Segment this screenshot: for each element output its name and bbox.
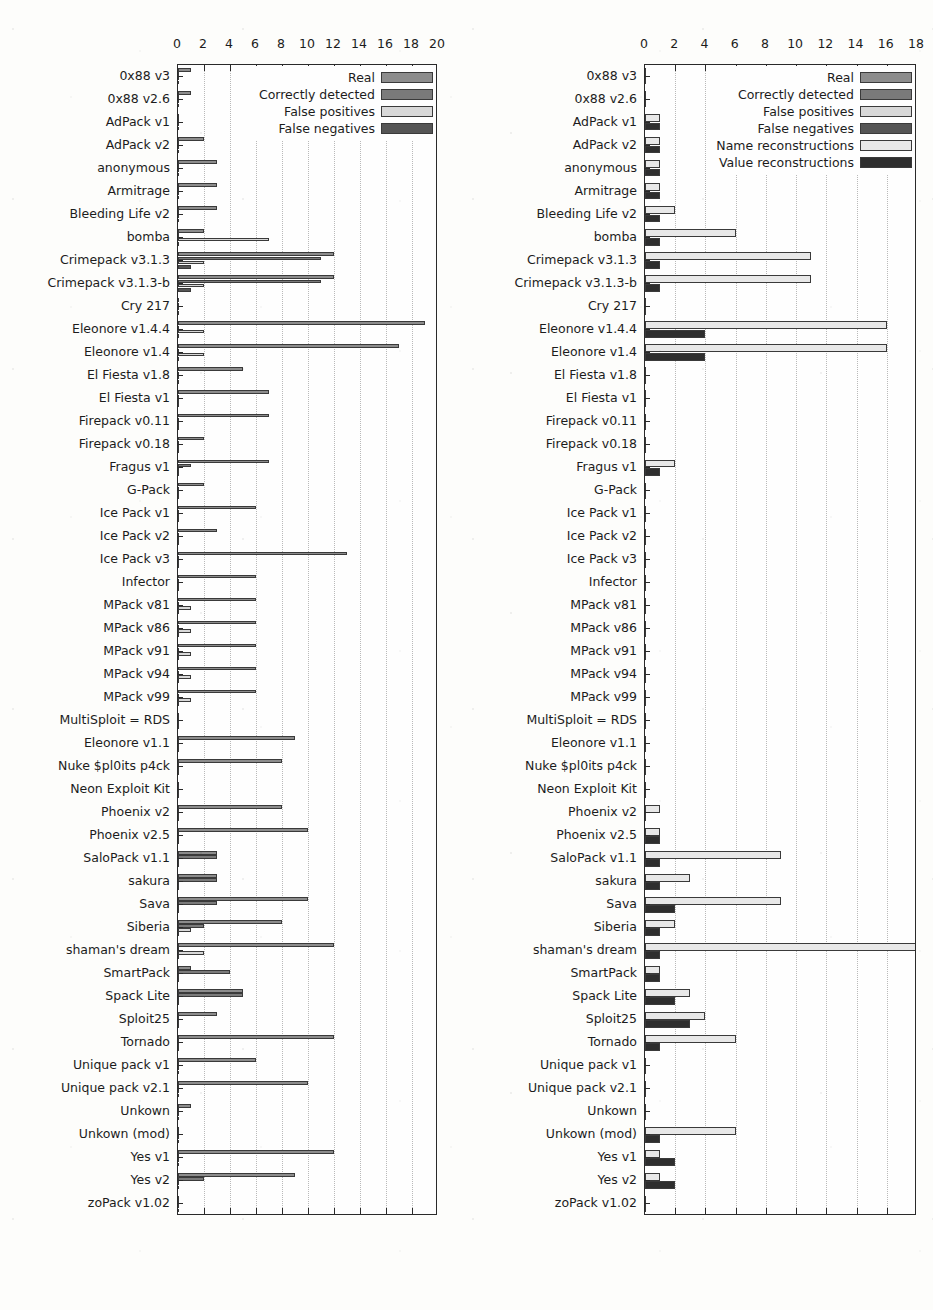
y-axis-tick: [177, 950, 183, 951]
bar: [645, 583, 646, 591]
y-axis-tick: [177, 789, 183, 790]
y-tick-label: Unkown (mod): [546, 1128, 637, 1140]
y-axis-tick: [644, 214, 650, 215]
bar: [645, 928, 660, 936]
bar-group: [178, 848, 436, 871]
y-tick-label: Ice Pack v1: [567, 507, 637, 519]
y-axis-tick: [177, 306, 183, 307]
bar: [178, 855, 217, 859]
bar-group: [645, 1193, 915, 1215]
bar: [645, 1112, 646, 1120]
y-axis-tick: [644, 536, 650, 537]
legend-label: Correctly detected: [738, 87, 854, 102]
bar: [178, 606, 191, 610]
y-tick-label: zoPack v1.02: [555, 1197, 637, 1209]
bar-group: [645, 802, 915, 825]
bar-group: [178, 456, 436, 479]
bar-group: [178, 1032, 436, 1055]
bar: [178, 840, 179, 844]
bar: [178, 951, 204, 955]
bar: [645, 560, 646, 568]
y-axis-tick: [644, 904, 650, 905]
bar: [178, 403, 179, 407]
bar: [178, 183, 217, 187]
y-tick-label: Tornado: [121, 1036, 170, 1048]
y-axis-tick: [644, 1111, 650, 1112]
bar-group: [645, 664, 915, 687]
bar: [645, 851, 781, 859]
bar: [178, 725, 179, 729]
y-axis-tick: [177, 582, 183, 583]
y-tick-label: Yes v1: [597, 1151, 637, 1163]
legend-swatch-fn: [860, 123, 912, 134]
y-axis-tick: [177, 145, 183, 146]
bar: [178, 460, 269, 464]
y-tick-label: Tornado: [588, 1036, 637, 1048]
y-tick-label: Ice Pack v2: [567, 530, 637, 542]
y-axis-tick: [644, 122, 650, 123]
bar: [178, 495, 179, 499]
bar: [645, 330, 705, 338]
bar: [645, 874, 690, 882]
bar: [178, 1001, 179, 1005]
y-tick-label: MPack v91: [570, 645, 637, 657]
bar: [645, 859, 660, 867]
y-axis-tick: [177, 927, 183, 928]
y-tick-label: AdPack v2: [106, 139, 170, 151]
y-axis-tick: [644, 628, 650, 629]
bar: [178, 817, 179, 821]
y-tick-label: Crimepack v3.1.3: [60, 254, 170, 266]
bar-group: [645, 249, 915, 272]
y-tick-label: AdPack v1: [106, 116, 170, 128]
bar: [178, 265, 191, 269]
y-axis-tick: [177, 812, 183, 813]
y-tick-label: sakura: [595, 875, 637, 887]
y-axis-tick: [644, 812, 650, 813]
x-tick-label: 0: [640, 36, 648, 51]
legend-label: False positives: [284, 104, 375, 119]
y-axis-tick: [177, 1088, 183, 1089]
bar: [645, 307, 646, 315]
bar-group: [645, 641, 915, 664]
bar-group: [178, 963, 436, 986]
x-tick-label: 0: [173, 36, 181, 51]
bar: [178, 219, 179, 223]
x-tick-label: 10: [787, 36, 803, 51]
bar: [645, 1204, 646, 1212]
bar: [178, 414, 269, 418]
bar: [178, 1071, 179, 1075]
bar: [645, 344, 887, 352]
bar: [178, 598, 256, 602]
bar-group: [178, 756, 436, 779]
bar-group: [178, 917, 436, 940]
figure-root: 02468101214161820RealCorrectly detectedF…: [0, 0, 933, 1310]
bar: [645, 1020, 690, 1028]
x-tick-label: 16: [878, 36, 894, 51]
y-tick-label: Cry 217: [588, 300, 637, 312]
y-tick-label: Neon Exploit Kit: [537, 783, 637, 795]
bar-group: [645, 733, 915, 756]
bar: [645, 652, 646, 660]
bar-group: [645, 180, 915, 203]
plot-area: RealCorrectly detectedFalse positivesFal…: [177, 64, 437, 1215]
y-tick-label: MPack v99: [570, 691, 637, 703]
bar: [178, 675, 191, 679]
y-tick-label: Unkown: [120, 1105, 170, 1117]
bar-group: [645, 917, 915, 940]
y-axis-tick: [644, 927, 650, 928]
bar: [645, 1181, 675, 1189]
bar-group: [178, 710, 436, 733]
bar-group: [645, 433, 915, 456]
y-tick-label: SaloPack v1.1: [550, 852, 637, 864]
reconstruction-chart: 024681012141618RealCorrectly detectedFal…: [466, 0, 933, 1310]
bar: [178, 1081, 308, 1085]
bar: [178, 1117, 179, 1121]
y-axis-tick: [177, 260, 183, 261]
x-tick-label: 18: [403, 36, 419, 51]
bar-group: [645, 1124, 915, 1147]
bar-group: [645, 825, 915, 848]
x-tick-label: 12: [325, 36, 341, 51]
bar-group: [645, 295, 915, 318]
bar: [178, 1140, 179, 1144]
x-tick-label: 16: [377, 36, 393, 51]
